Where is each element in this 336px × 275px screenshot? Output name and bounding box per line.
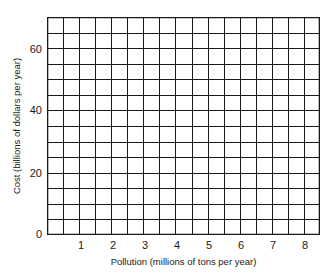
y-tick-0: 0 <box>22 228 42 240</box>
x-tick-1: 1 <box>73 239 89 251</box>
x-axis-label: Pollution (millions of tons per year) <box>47 256 320 267</box>
graph-grid <box>47 17 320 235</box>
x-tick-2: 2 <box>105 239 121 251</box>
y-tick-60: 60 <box>22 43 42 55</box>
x-tick-7: 7 <box>265 239 281 251</box>
y-tick-40: 40 <box>22 104 42 116</box>
x-tick-6: 6 <box>233 239 249 251</box>
y-axis-label: Cost (billions of dollars per year) <box>11 58 22 194</box>
x-tick-8: 8 <box>297 239 313 251</box>
x-tick-4: 4 <box>169 239 185 251</box>
x-tick-3: 3 <box>137 239 153 251</box>
y-tick-20: 20 <box>22 167 42 179</box>
x-tick-5: 5 <box>201 239 217 251</box>
